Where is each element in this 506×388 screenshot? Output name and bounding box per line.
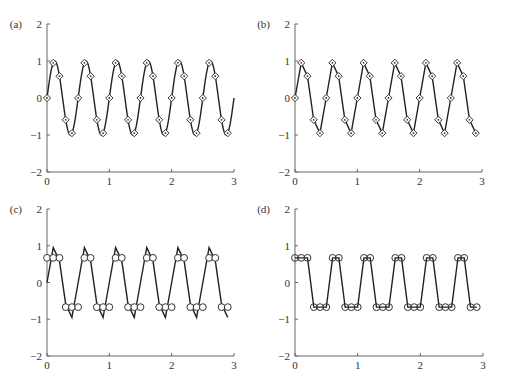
- y-tick-label: 2: [37, 203, 43, 215]
- y-tick-label: −1: [278, 129, 290, 141]
- circle-marker: [473, 304, 480, 311]
- marker-dot: [196, 132, 198, 134]
- marker-dot: [381, 132, 383, 134]
- y-tick-label: 1: [285, 240, 291, 252]
- circle-marker: [448, 304, 455, 311]
- marker-dot: [202, 97, 204, 99]
- marker-dot: [475, 132, 477, 134]
- x-tick-label: 0: [292, 359, 298, 371]
- x-tick-label: 1: [107, 359, 113, 371]
- circle-marker: [181, 254, 188, 261]
- y-tick-label: 1: [285, 55, 291, 67]
- marker-dot: [108, 97, 110, 99]
- marker-dot: [319, 132, 321, 134]
- x-tick-label: 2: [418, 359, 424, 371]
- marker-dot: [294, 97, 296, 99]
- x-tick-label: 2: [169, 175, 175, 187]
- circle-marker: [75, 304, 82, 311]
- y-tick-label: −2: [278, 166, 290, 178]
- marker-dot: [152, 75, 154, 77]
- marker-dot: [133, 132, 135, 134]
- marker-dot: [214, 75, 216, 77]
- x-tick-label: 1: [107, 175, 113, 187]
- marker-dot: [71, 132, 73, 134]
- x-tick-label: 3: [480, 359, 486, 371]
- marker-dot: [406, 119, 408, 121]
- circle-marker: [398, 254, 405, 261]
- marker-dot: [115, 62, 117, 64]
- marker-dot: [325, 97, 327, 99]
- marker-dot: [84, 62, 86, 64]
- circle-marker: [106, 304, 113, 311]
- x-tick-label: 1: [355, 175, 361, 187]
- circle-marker: [386, 304, 393, 311]
- marker-dot: [413, 132, 415, 134]
- marker-dot: [183, 75, 185, 77]
- marker-dot: [65, 119, 67, 121]
- marker-dot: [127, 119, 129, 121]
- marker-dot: [221, 119, 223, 121]
- marker-dot: [59, 75, 61, 77]
- x-tick-label: 3: [231, 359, 237, 371]
- circle-marker: [87, 254, 94, 261]
- panel-label: (b): [257, 18, 270, 31]
- circle-marker: [199, 304, 206, 311]
- circle-marker: [150, 254, 157, 261]
- marker-dot: [344, 119, 346, 121]
- circle-marker: [461, 254, 468, 261]
- marker-dot: [388, 97, 390, 99]
- marker-dot: [450, 97, 452, 99]
- marker-dot: [369, 75, 371, 77]
- figure: −2−10120123(a) −2−10120123(b) −2−1012012…: [0, 0, 506, 388]
- marker-dot: [338, 75, 340, 77]
- marker-dot: [356, 97, 358, 99]
- marker-dot: [425, 62, 427, 64]
- circle-marker: [354, 304, 361, 311]
- circle-marker: [304, 254, 311, 261]
- marker-dot: [307, 75, 309, 77]
- y-tick-label: 2: [285, 18, 291, 30]
- y-tick-label: −1: [278, 313, 290, 325]
- circle-marker: [224, 304, 231, 311]
- marker-dot: [313, 119, 315, 121]
- y-tick-label: 0: [37, 92, 43, 104]
- x-tick-label: 2: [169, 359, 175, 371]
- circle-marker: [429, 254, 436, 261]
- marker-dot: [90, 75, 92, 77]
- y-tick-label: −2: [278, 350, 290, 362]
- marker-dot: [363, 62, 365, 64]
- marker-dot: [189, 119, 191, 121]
- y-tick-label: −1: [30, 313, 42, 325]
- marker-dot: [102, 132, 104, 134]
- marker-dot: [77, 97, 79, 99]
- circle-marker: [367, 254, 374, 261]
- circle-marker: [168, 304, 175, 311]
- panel-label: (a): [10, 18, 23, 31]
- marker-dot: [171, 97, 173, 99]
- marker-dot: [46, 97, 48, 99]
- marker-dot: [52, 62, 54, 64]
- x-tick-label: 0: [292, 175, 298, 187]
- marker-dot: [121, 75, 123, 77]
- marker-dot: [165, 132, 167, 134]
- marker-dot: [462, 75, 464, 77]
- panel-b: −2−10120123(b): [257, 18, 485, 187]
- marker-dot: [350, 132, 352, 134]
- y-tick-label: 2: [37, 18, 43, 30]
- marker-dot: [444, 132, 446, 134]
- y-tick-label: −1: [30, 129, 42, 141]
- marker-dot: [394, 62, 396, 64]
- panel-label: (c): [10, 203, 23, 216]
- marker-dot: [400, 75, 402, 77]
- panel-d: −2−10120123(d): [257, 203, 486, 371]
- x-tick-label: 3: [479, 175, 485, 187]
- x-tick-label: 1: [355, 359, 361, 371]
- y-tick-label: 0: [285, 277, 291, 289]
- panel-label: (d): [257, 203, 270, 216]
- marker-dot: [227, 132, 229, 134]
- circle-marker: [323, 304, 330, 311]
- circle-marker: [118, 254, 125, 261]
- y-tick-label: 1: [37, 55, 43, 67]
- circle-marker: [212, 254, 219, 261]
- panel-a: −2−10120123(a): [10, 18, 237, 187]
